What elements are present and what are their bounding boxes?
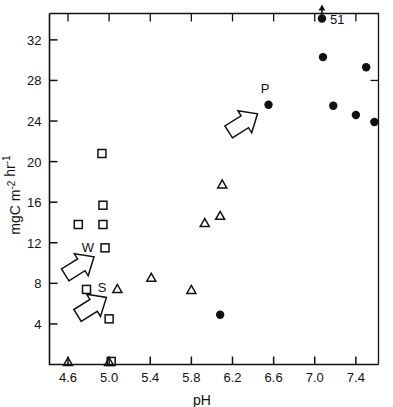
svg-text:mgC m-2 hr-1: mgC m-2 hr-1	[1, 155, 23, 235]
y-tick-label-8: 8	[34, 276, 41, 291]
data-point-W-0	[74, 221, 82, 229]
data-point-P-2	[318, 14, 326, 22]
y-tick-label-28: 28	[27, 73, 41, 88]
data-point-S-4	[187, 285, 196, 293]
y-tick-label-4: 4	[34, 317, 41, 332]
x-axis-title: pH	[193, 392, 211, 407]
data-point-W-3	[99, 201, 107, 209]
annotation-arrow-W	[62, 254, 95, 281]
data-point-W-5	[101, 244, 109, 252]
x-tick-label-6.6: 6.6	[265, 370, 283, 385]
data-point-S-7	[218, 180, 227, 188]
x-tick-label-7.4: 7.4	[347, 370, 365, 385]
x-tick-label-6.2: 6.2	[223, 370, 241, 385]
data-point-W-6	[105, 315, 113, 323]
data-point-S-2	[113, 284, 122, 292]
data-point-S-6	[216, 211, 225, 219]
x-tick-label-7.0: 7.0	[306, 370, 324, 385]
x-tick-label-5.4: 5.4	[141, 370, 159, 385]
annotation-arrow-P	[225, 111, 258, 138]
data-point-W-4	[99, 221, 107, 229]
annotation-label-offscale-value: 51	[330, 12, 344, 27]
data-point-P-0	[216, 311, 224, 319]
y-tick-label-24: 24	[27, 114, 41, 129]
y-tick-label-12: 12	[27, 236, 41, 251]
y-tick-label-20: 20	[27, 155, 41, 170]
data-point-P-1	[264, 101, 272, 109]
y-axis-title: mgC m-2 hr-1	[1, 155, 23, 235]
y-tick-label-32: 32	[27, 33, 41, 48]
data-point-P-4	[329, 102, 337, 110]
data-point-P-6	[362, 63, 370, 71]
x-tick-label-5.0: 5.0	[100, 370, 118, 385]
plot-canvas: 481216202428324.65.05.45.86.26.67.07.4pH…	[0, 0, 393, 407]
x-tick-label-5.8: 5.8	[182, 370, 200, 385]
data-point-P-5	[352, 111, 360, 119]
scatter-plot-figure: 481216202428324.65.05.45.86.26.67.07.4pH…	[0, 0, 393, 407]
data-point-W-2	[98, 149, 106, 157]
annotation-label-S: S	[98, 280, 107, 295]
data-point-S-5	[200, 219, 209, 227]
x-tick-label-4.6: 4.6	[59, 370, 77, 385]
annotation-label-P: P	[261, 81, 270, 96]
data-point-W-1	[83, 285, 91, 293]
data-point-P-3	[319, 53, 327, 61]
annotation-label-W: W	[82, 240, 95, 255]
data-point-P-7	[370, 118, 378, 126]
y-tick-label-16: 16	[27, 195, 41, 210]
data-point-S-3	[147, 273, 156, 281]
annotation-arrow-S	[74, 294, 107, 321]
